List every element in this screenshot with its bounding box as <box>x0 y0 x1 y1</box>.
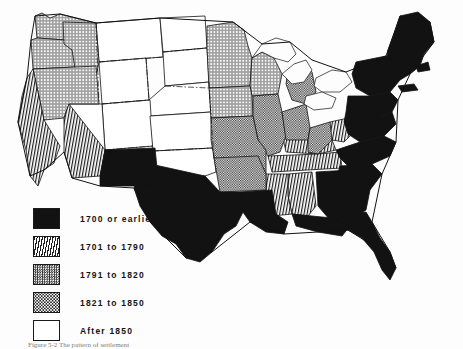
swatch-fine-checker-icon <box>33 264 60 285</box>
swatch-diagonal-hatch-icon <box>33 236 60 257</box>
swatch-circle-dots-icon <box>33 292 60 313</box>
legend-item-after-1850: After 1850 <box>33 318 233 343</box>
legend-label-1701-to-1790: 1701 to 1790 <box>80 242 145 252</box>
legend-label-1821-to-1850: 1821 to 1850 <box>80 298 145 308</box>
legend-label-after-1850: After 1850 <box>80 326 133 336</box>
figure-caption: Figure 5-2 The pattern of settlement <box>28 341 448 349</box>
legend-item-1791-to-1820: 1791 to 1820 <box>33 262 233 287</box>
legend-item-1700-or-earlier: 1700 or earlier <box>33 206 233 231</box>
swatch-white-blank-icon <box>33 320 60 341</box>
swatch-solid-black-icon <box>33 208 60 229</box>
figure-container: 1700 or earlier 1701 to 1790 1791 to 182… <box>0 0 463 349</box>
legend-item-1701-to-1790: 1701 to 1790 <box>33 234 233 259</box>
settlement-date-legend: 1700 or earlier 1701 to 1790 1791 to 182… <box>33 206 233 346</box>
legend-item-1821-to-1850: 1821 to 1850 <box>33 290 233 315</box>
legend-label-1791-to-1820: 1791 to 1820 <box>80 270 145 280</box>
legend-label-1700-or-earlier: 1700 or earlier <box>80 214 156 224</box>
